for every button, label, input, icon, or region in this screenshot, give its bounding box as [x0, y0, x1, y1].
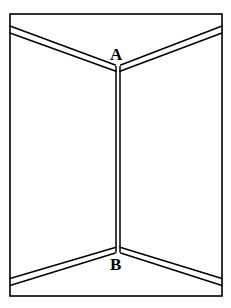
vertex-label-a: A [110, 46, 122, 63]
figure-container: A B [0, 0, 231, 308]
vertex-label-b: B [110, 256, 121, 273]
